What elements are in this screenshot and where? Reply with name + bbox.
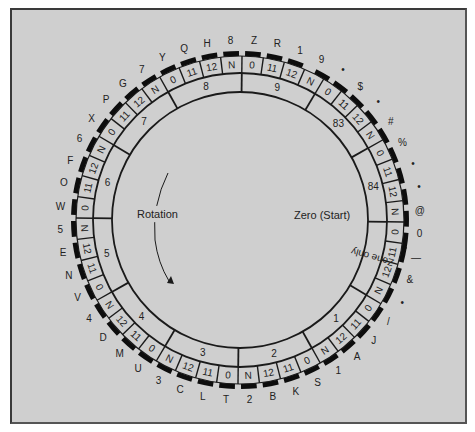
cell-divider [280, 62, 285, 78]
outer-character-label: • [377, 96, 381, 107]
outer-character-label: 1 [335, 365, 341, 376]
punch-bar [77, 263, 87, 279]
outer-character-label: L [200, 391, 206, 402]
cell-divider [368, 140, 383, 148]
code-cell: 0 [147, 342, 158, 354]
outer-character-label: Q [180, 43, 188, 54]
punch-bars [71, 51, 409, 389]
outer-character-label: U [135, 363, 142, 374]
outer-character-label: 5 [57, 224, 63, 235]
band-label: 8 [203, 81, 209, 92]
outer-character-label: A [354, 351, 361, 362]
band-divider [305, 94, 315, 110]
punch-bar [283, 373, 299, 383]
code-cell: 11 [282, 361, 296, 375]
code-cell: 0 [374, 148, 387, 158]
punch-bar [364, 110, 378, 125]
cell-divider [385, 241, 402, 243]
code-cell: N [319, 344, 331, 357]
code-cell: N [164, 352, 175, 365]
code-cell: 12 [285, 66, 300, 80]
code-cell: N [364, 129, 377, 141]
outer-character-label: • [417, 181, 421, 192]
outer-character-label: • [341, 64, 345, 75]
outer-character-label: 1 [297, 45, 303, 56]
outer-character-label: # [388, 116, 394, 127]
cell-divider [156, 346, 165, 361]
outer-character-label: T [223, 394, 229, 405]
rotation-arrow [155, 173, 174, 284]
cell-divider [199, 61, 203, 77]
band-label: 4 [139, 311, 145, 322]
cell-divider [160, 77, 168, 92]
code-cell: 12 [262, 366, 275, 379]
outer-character-label: 3 [156, 375, 162, 386]
outer-character-label: F [67, 155, 73, 166]
band-label: 2 [271, 348, 277, 359]
cell-divider [298, 69, 305, 85]
outer-character-label: D [100, 332, 107, 343]
code-cells: 01112N01112N01112N01112N01112N01112N0111… [76, 56, 404, 384]
outer-character-label: % [398, 137, 407, 148]
outer-character-label: $ [358, 81, 364, 92]
code-cell: 0 [389, 228, 400, 235]
cell-divider [257, 366, 259, 383]
outer-character-label: J [371, 335, 376, 346]
outer-character-label: R [274, 38, 281, 49]
cell-divider [99, 136, 114, 145]
cell-divider [315, 79, 324, 94]
outer-character-label: G [119, 78, 127, 89]
band-divider [112, 283, 129, 292]
outer-character-label: 4 [86, 313, 92, 324]
code-cell: 0 [225, 369, 232, 380]
code-cell: N [390, 208, 401, 216]
code-cell: N [79, 224, 90, 232]
code-cell: 11 [85, 262, 99, 276]
band-label: 83 [333, 118, 345, 129]
code-cell: N [244, 370, 252, 381]
code-cell: 0 [94, 282, 107, 292]
cell-divider [221, 57, 223, 74]
outer-character-label: 2 [247, 394, 253, 405]
cell-divider [366, 295, 381, 304]
outer-character-label: E [60, 247, 67, 258]
outer-character-label: Z [251, 35, 257, 46]
outer-character-label: • [400, 297, 404, 308]
outer-character-label: 7 [139, 64, 145, 75]
outer-character-label: B [270, 391, 277, 402]
outer-character-label: W [56, 201, 66, 212]
code-cell: N [228, 59, 236, 70]
code-cell: N [95, 144, 108, 155]
band-label: 9 [274, 82, 280, 93]
punch-bar [396, 167, 405, 183]
outer-character-label: 8 [228, 35, 234, 46]
outer-character-label: V [74, 292, 81, 303]
cell-divider [217, 365, 219, 382]
cell-divider [261, 58, 263, 75]
cell-divider [312, 348, 320, 363]
outer-character-label: S [314, 377, 321, 388]
outer-character-label: O [60, 177, 68, 188]
code-cell: N [305, 75, 316, 88]
outer-character-label: • [411, 158, 415, 169]
code-cell: 12 [86, 161, 100, 176]
code-cell: 0 [249, 59, 256, 70]
outer-character-label: / [387, 316, 390, 327]
cell-divider [97, 292, 112, 300]
band-label: 84 [368, 181, 380, 192]
cell-divider [179, 68, 185, 84]
zero-start-label: Zero (Start) [294, 209, 350, 221]
outer-character-label: C [176, 384, 183, 395]
code-cell: 12 [205, 61, 218, 74]
band-label: 3 [200, 347, 206, 358]
code-cell: 11 [81, 181, 94, 194]
band-divider [165, 330, 175, 346]
cell-divider [196, 362, 201, 378]
code-cell: 0 [79, 204, 90, 211]
cell-divider [382, 179, 398, 183]
code-cell: 11 [202, 366, 215, 379]
code-cell: N [149, 83, 161, 96]
band-divider [352, 148, 369, 157]
cell-divider [82, 176, 98, 181]
ring-circle [76, 56, 404, 384]
